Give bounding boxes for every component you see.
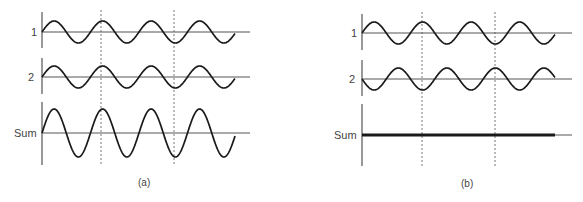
panel-b-label-sum: Sum: [334, 129, 357, 141]
interference-diagram: [0, 0, 583, 202]
panel-b-label-wave-1: 1: [351, 27, 357, 39]
panel-a-label-wave-1: 1: [31, 26, 37, 38]
panel-a-label-sum: Sum: [14, 127, 37, 139]
panel-a-label-wave-2: 2: [28, 71, 34, 83]
panel-b-caption: (b): [461, 178, 473, 189]
panel-b-destructive: [362, 12, 572, 166]
panel-b-label-wave-2: 2: [349, 73, 355, 85]
panel-a-constructive: [42, 10, 250, 166]
panel-a-caption: (a): [138, 177, 150, 188]
